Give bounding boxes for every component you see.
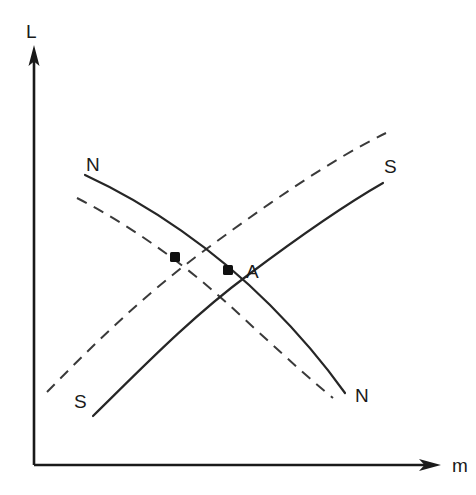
curve-label-n-top: N	[86, 155, 100, 174]
axes-group	[29, 45, 442, 471]
y-axis-label: L	[26, 22, 37, 41]
x-axis-label: m	[452, 456, 468, 475]
figure-canvas: L m N S S N A	[0, 0, 476, 495]
curve-n-solid	[85, 175, 345, 393]
curve-n-dashed	[77, 198, 333, 398]
curve-label-s-bottom: S	[74, 392, 87, 411]
curve-label-s-top: S	[384, 157, 397, 176]
intersection-dot-dashed	[170, 252, 180, 262]
curve-s-solid	[93, 183, 383, 416]
intersection-dot-a	[223, 265, 233, 275]
solid-curves-group	[85, 175, 383, 416]
point-label-a: A	[246, 262, 259, 281]
curve-label-n-bottom: N	[355, 386, 369, 405]
diagram-svg	[0, 0, 476, 495]
